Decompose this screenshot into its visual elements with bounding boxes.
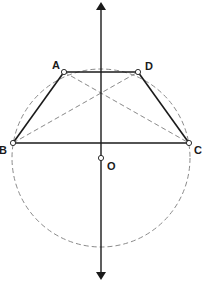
- side-ab: [13, 72, 64, 143]
- point-c: [186, 140, 191, 145]
- point-a: [61, 69, 66, 74]
- point-o: [98, 155, 103, 160]
- label-d: D: [145, 60, 153, 72]
- label-c: C: [194, 144, 202, 156]
- side-dc: [138, 72, 189, 143]
- label-b: B: [0, 144, 7, 156]
- diagonal-bd: [13, 72, 138, 143]
- label-o: O: [107, 160, 116, 172]
- diagonal-ac: [64, 72, 189, 143]
- point-d: [135, 69, 140, 74]
- trapezoid-diagram: A D B C O: [0, 0, 202, 285]
- point-b: [10, 140, 15, 145]
- label-a: A: [52, 59, 60, 71]
